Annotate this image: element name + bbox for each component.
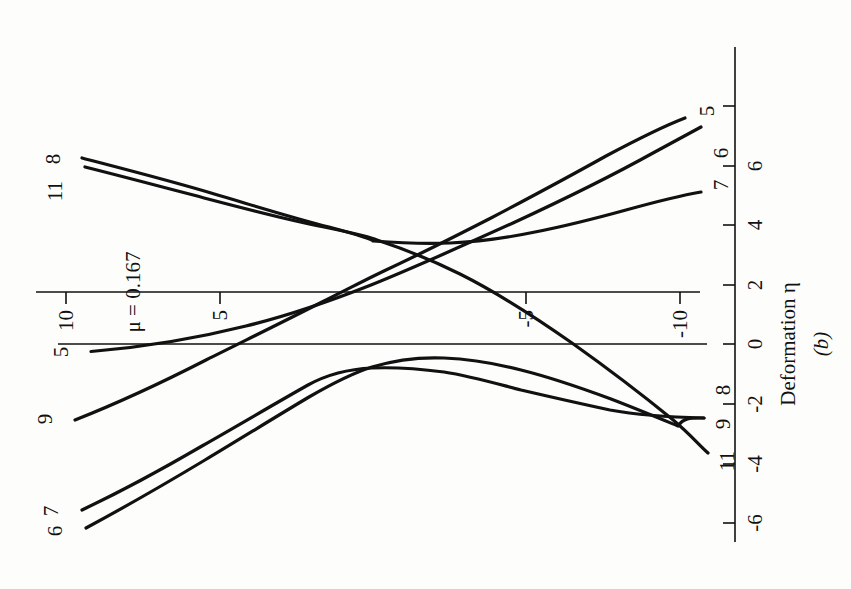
curve-end-labels: 8 9 5 7 6 xyxy=(33,154,73,537)
x-axis-title: Deformation η xyxy=(776,282,800,406)
curve-7[interactable] xyxy=(82,368,704,510)
curve-label-7-top: 7 xyxy=(39,506,63,517)
curve-label-6-top: 6 xyxy=(43,526,67,537)
y-tick-label-5: 5 xyxy=(208,310,232,321)
x-tick-label-0: 0 xyxy=(743,339,767,350)
curve-label-5-bottom: 5 xyxy=(695,106,719,117)
plot-svg: -6 -4 -2 0 2 4 6 Deformation η (b) xyxy=(0,0,851,589)
curve-label-7-bottom: 7 xyxy=(709,180,733,191)
x-tick-label-4: 4 xyxy=(743,219,767,230)
curve-label-6-bottom: 6 xyxy=(709,148,733,159)
x-tick-label--2: -2 xyxy=(743,395,767,413)
curve-8[interactable] xyxy=(82,158,701,243)
curve-9[interactable] xyxy=(75,118,685,420)
curve-6[interactable] xyxy=(86,358,704,528)
curve-label-8-bottom: 8 xyxy=(711,385,735,396)
curve-group xyxy=(75,118,708,528)
x-tick-label-6: 6 xyxy=(743,161,767,172)
curve-label-9-top: 9 xyxy=(33,414,57,425)
curve-label-5-top: 5 xyxy=(49,347,73,358)
curve-label-9-bottom: 9 xyxy=(711,419,735,430)
figure-panel: -6 -4 -2 0 2 4 6 Deformation η (b) xyxy=(0,0,851,589)
curve-5[interactable] xyxy=(91,127,701,352)
y-tick-label--10: -10 xyxy=(668,310,692,338)
curve-label-11-top: 11 xyxy=(43,181,67,201)
x-tick-label--6: -6 xyxy=(743,514,767,532)
x-tick-label--4: -4 xyxy=(743,455,767,473)
y-axis-tick-labels: 10 5 -5 -10 xyxy=(54,310,692,338)
x-axis-tick-labels: -6 -4 -2 0 2 4 6 xyxy=(743,161,767,532)
curve-label-8-top: 8 xyxy=(41,154,65,165)
x-tick-label-2: 2 xyxy=(743,280,767,291)
mu-annotation: μ = 0.167 xyxy=(121,252,145,333)
y-tick-label-10: 10 xyxy=(54,310,78,331)
figure-caption: (b) xyxy=(809,332,833,357)
curve-label-11-bottom: 11 xyxy=(715,451,739,471)
curve-end-labels-bottom: 11 9 8 7 6 5 xyxy=(695,106,739,471)
rotated-plot-wrapper: -6 -4 -2 0 2 4 6 Deformation η (b) xyxy=(0,0,851,589)
y-axis-ticks xyxy=(66,292,680,304)
